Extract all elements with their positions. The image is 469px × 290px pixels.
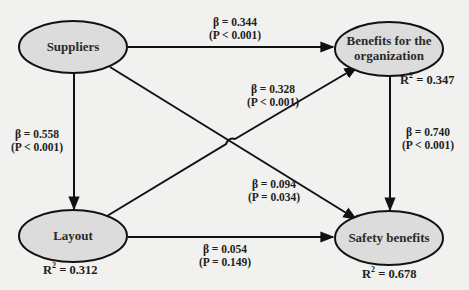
beta-value: β = 0.094: [239, 178, 309, 191]
r2-layout: R2 = 0.312: [43, 263, 98, 278]
r2-benefits-organization: R2 = 0.347: [400, 73, 455, 88]
layout-text: Layout: [53, 228, 93, 243]
r2-value: = 0.347: [413, 73, 455, 87]
coef-suppliers-to-safety: β = 0.094 (P = 0.034): [239, 178, 309, 204]
r2-sup: 2: [409, 71, 413, 80]
coef-suppliers-to-benefits: β = 0.344 (P < 0.001): [200, 16, 270, 42]
label-suppliers: Suppliers: [19, 39, 127, 54]
beta-value: β = 0.328: [238, 83, 308, 96]
suppliers-text: Suppliers: [47, 39, 100, 54]
r2-prefix: R: [362, 267, 371, 281]
beta-value: β = 0.054: [190, 243, 260, 256]
path-model-diagram: Suppliers Benefits for the organization …: [0, 0, 469, 290]
safety-text: Safety benefits: [348, 230, 429, 245]
beta-value: β = 0.558: [2, 128, 72, 141]
p-value: (P < 0.001): [393, 139, 463, 152]
r2-value: = 0.312: [56, 263, 98, 277]
beta-value: β = 0.344: [200, 16, 270, 29]
r2-sup: 2: [52, 261, 56, 270]
r2-sup: 2: [371, 265, 375, 274]
p-value: (P < 0.001): [200, 29, 270, 42]
coef-suppliers-to-layout: β = 0.558 (P < 0.001): [2, 128, 72, 154]
benefits-line2: organization: [335, 48, 443, 63]
coef-layout-to-safety: β = 0.054 (P = 0.149): [190, 243, 260, 269]
beta-value: β = 0.740: [393, 126, 463, 139]
r2-prefix: R: [400, 73, 409, 87]
p-value: (P < 0.001): [2, 141, 72, 154]
p-value: (P = 0.034): [239, 191, 309, 204]
benefits-line1: Benefits for the: [335, 33, 443, 48]
label-safety-benefits: Safety benefits: [335, 230, 443, 245]
coef-benefits-to-safety: β = 0.740 (P < 0.001): [393, 126, 463, 152]
r2-value: = 0.678: [375, 267, 417, 281]
p-value: (P = 0.149): [190, 256, 260, 269]
label-layout: Layout: [19, 228, 127, 243]
r2-prefix: R: [43, 263, 52, 277]
label-benefits-organization: Benefits for the organization: [335, 33, 443, 63]
r2-safety-benefits: R2 = 0.678: [362, 267, 417, 282]
coef-layout-to-benefits: β = 0.328 (P < 0.001): [238, 83, 308, 109]
p-value: (P < 0.001): [238, 96, 308, 109]
